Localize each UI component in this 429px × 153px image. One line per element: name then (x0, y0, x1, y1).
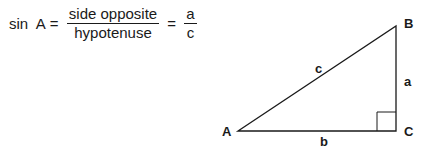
vertex-label-c: C (404, 124, 414, 139)
side-label-a: a (404, 74, 412, 89)
triangle-shape (238, 26, 396, 131)
vertex-label-a: A (222, 124, 232, 139)
right-triangle-diagram: A B C c a b (0, 0, 429, 153)
side-label-b: b (320, 134, 328, 149)
right-angle-marker (377, 112, 396, 131)
vertex-label-b: B (404, 16, 413, 31)
side-label-c: c (315, 61, 322, 76)
